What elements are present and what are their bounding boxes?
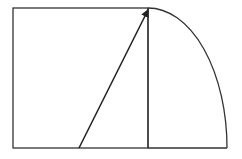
rectangle [13,8,148,148]
quarter-arc [148,8,227,148]
diagram-canvas [0,0,242,159]
arrow [79,10,148,148]
